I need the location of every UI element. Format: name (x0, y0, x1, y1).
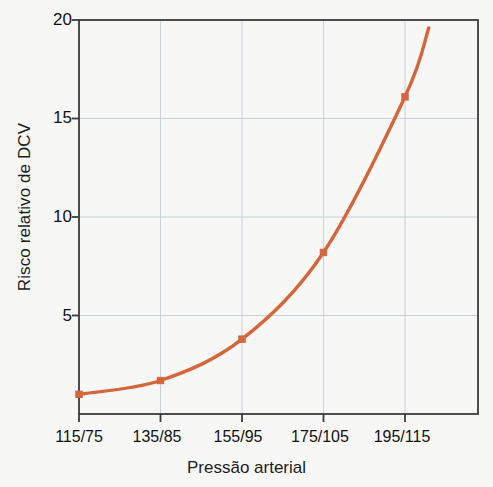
chart-figure: Risco relativo de DCV 20 15 10 5 115/75 … (0, 0, 493, 487)
gridlines (79, 20, 478, 414)
axis-tick-marks (72, 20, 405, 422)
data-line-risco-relativo (79, 28, 429, 394)
plot-area (0, 0, 493, 487)
